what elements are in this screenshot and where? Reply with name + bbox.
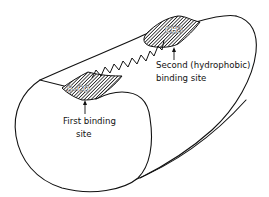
first-site-group-label: S–CO: [67, 85, 90, 94]
cylinder-top-edge-right: [196, 15, 236, 22]
second-site-group-label: CH3: [165, 26, 183, 35]
binding-site-diagram: S–CO CH3 First binding site Second (hydr…: [0, 0, 269, 197]
second-site-caption-line2: binding site: [156, 73, 206, 83]
first-site-caption-line1: First binding: [63, 116, 116, 126]
second-site-arrowhead-icon: [172, 47, 176, 52]
first-site-caption-line2: site: [76, 129, 92, 139]
second-site-caption-line1: Second (hydrophobic): [156, 60, 250, 70]
